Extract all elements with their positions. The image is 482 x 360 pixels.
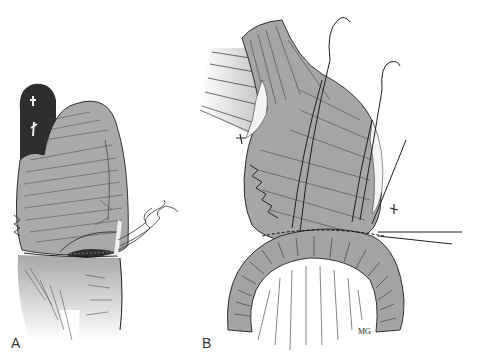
panel-a-drawing [14,84,178,340]
panel-b-drawing: MG [200,17,462,350]
panel-label-a: A [11,335,20,351]
artist-signature: MG [358,327,371,336]
illustration-canvas: MG [0,0,482,360]
panel-label-b: B [202,335,211,351]
surgical-illustration: MG A B [0,0,482,360]
